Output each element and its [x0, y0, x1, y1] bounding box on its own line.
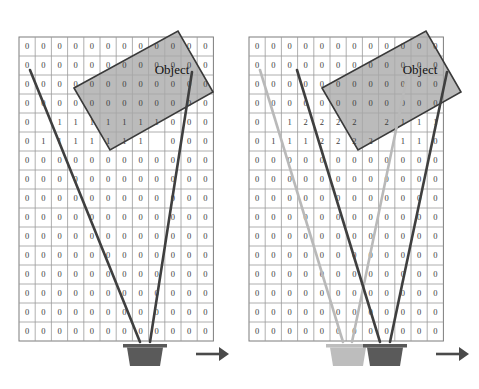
grid-cell-value: 0	[352, 41, 356, 51]
grid-cell-value: 0	[304, 288, 308, 298]
grid-cell-value: 0	[187, 193, 191, 203]
grid-cell-value: 0	[138, 212, 142, 222]
sensor-dark[interactable]	[363, 344, 407, 366]
grid-cell-value: 0	[352, 307, 356, 317]
grid-cell-value: 0	[90, 250, 94, 260]
grid-cell-value: 1	[155, 117, 159, 127]
grid-cell-value: 0	[385, 193, 389, 203]
grid-cell-value: 1	[401, 117, 405, 127]
grid-cell-value: 0	[41, 307, 45, 317]
grid-cell-value: 0	[368, 269, 372, 279]
grid-cell-value: 0	[368, 212, 372, 222]
grid-cell-value: 0	[320, 212, 324, 222]
grid-cell-value: 0	[138, 288, 142, 298]
grid-cell-value: 0	[90, 60, 94, 70]
grid-cell-value: 0	[138, 250, 142, 260]
diagram-right: 0000000000000000000000000000000000000000…	[240, 0, 479, 389]
grid-cell-value: 0	[106, 212, 110, 222]
grid-cell-value: 2	[352, 117, 356, 127]
grid-cell-value: 0	[203, 269, 207, 279]
grid-cell-value: 0	[271, 79, 275, 89]
grid-cell-value: 0	[90, 326, 94, 336]
grid-cell-value: 0	[90, 41, 94, 51]
grid-cell-value: 0	[385, 288, 389, 298]
grid-cell-value: 0	[352, 155, 356, 165]
grid-cell-value: 0	[320, 326, 324, 336]
grid-cell-value: 0	[41, 269, 45, 279]
grid-cell-value: 0	[25, 174, 29, 184]
grid-cell-value: 0	[336, 250, 340, 260]
grid-cell-value: 0	[203, 41, 207, 51]
grid-cell-value: 0	[155, 250, 159, 260]
grid-cell-value: 0	[138, 269, 142, 279]
grid-cell-value: 1	[106, 136, 110, 146]
grid-cell-value: 0	[41, 326, 45, 336]
grid-cell-value: 0	[106, 307, 110, 317]
grid-cell-value: 0	[368, 174, 372, 184]
grid-cell-value: 0	[417, 79, 421, 89]
grid-cell-value: 0	[90, 307, 94, 317]
grid-cell-value: 0	[203, 250, 207, 260]
grid-cell-value: 0	[106, 326, 110, 336]
sensor-lip	[363, 344, 407, 348]
grid-cell-value: 0	[352, 269, 356, 279]
grid-cell-value: 0	[287, 79, 291, 89]
grid-cell-value: 0	[138, 98, 142, 108]
grid-cell-value: 0	[287, 250, 291, 260]
grid-cell-value: 0	[155, 155, 159, 165]
grid-cell-value: 0	[385, 231, 389, 241]
grid-cell-value: 0	[352, 212, 356, 222]
grid-cell-value: 2	[352, 136, 356, 146]
grid-cell-value: 0	[433, 326, 437, 336]
grid-cell-value: 0	[287, 212, 291, 222]
grid-cell-value: 0	[25, 212, 29, 222]
grid-cell-value: 0	[25, 136, 29, 146]
grid-cell-value: 0	[255, 174, 259, 184]
grid-cell-value: 0	[385, 79, 389, 89]
grid-cell-value: 0	[203, 98, 207, 108]
grid-cell-value: 0	[122, 269, 126, 279]
grid-cell-value: 0	[25, 98, 29, 108]
grid-cell-value: 0	[138, 41, 142, 51]
grid-cell-value: 0	[304, 231, 308, 241]
grid-cell-value: 0	[155, 269, 159, 279]
grid-cell-value: 0	[271, 288, 275, 298]
grid-cell-value: 0	[433, 98, 437, 108]
grid-cell-value: 0	[401, 193, 405, 203]
grid-cell-value: 0	[417, 288, 421, 298]
grid-cell-value: 0	[433, 79, 437, 89]
grid-cell-value: 0	[417, 174, 421, 184]
grid-cell-value: 0	[187, 326, 191, 336]
grid-cell-value: 0	[255, 307, 259, 317]
grid-cell-value: 0	[57, 250, 61, 260]
grid-cell-value: 0	[203, 155, 207, 165]
grid-cell-value: 0	[271, 41, 275, 51]
grid-cell-value: 0	[155, 41, 159, 51]
grid-cell-value: 0	[352, 174, 356, 184]
grid-cell-value: 0	[320, 307, 324, 317]
grid-cell-value: 0	[203, 288, 207, 298]
grid-cell-value: 0	[336, 155, 340, 165]
grid-cell-value: 0	[90, 269, 94, 279]
sensor-dark[interactable]	[123, 344, 167, 366]
grid-cell-value: 0	[187, 155, 191, 165]
grid-cell-value: 0	[90, 174, 94, 184]
grid-cell-value: 0	[320, 231, 324, 241]
grid-cell-value: 0	[203, 212, 207, 222]
grid-cell-value: 0	[25, 269, 29, 279]
grid-cell-value: 0	[320, 60, 324, 70]
grid-cell-value: 0	[368, 60, 372, 70]
grid-cell-value: 0	[255, 193, 259, 203]
grid-cell-value: 2	[320, 117, 324, 127]
grid-cell-value: 0	[287, 326, 291, 336]
grid-cell-value: 0	[287, 60, 291, 70]
grid-cell-value: 0	[138, 193, 142, 203]
grid-cell-value: 0	[255, 136, 259, 146]
grid-cell-value: 1	[287, 117, 291, 127]
grid-cell-value: 0	[255, 117, 259, 127]
grid-cell-value: 0	[336, 98, 340, 108]
grid-cell-value: 0	[41, 231, 45, 241]
direction-arrow-icon	[196, 347, 229, 361]
grid-cell-value: 0	[90, 288, 94, 298]
grid-cell-value: 2	[368, 136, 372, 146]
